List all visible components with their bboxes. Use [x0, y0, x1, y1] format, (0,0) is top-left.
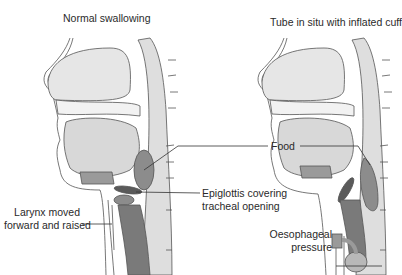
- left-head-section: [44, 38, 178, 275]
- label-oesophageal: Oesophageal pressure: [262, 228, 332, 254]
- label-oesophageal-line2: pressure: [262, 241, 332, 254]
- label-food: Food: [271, 140, 295, 153]
- label-larynx-line1: Larynx moved: [4, 206, 80, 219]
- label-larynx: Larynx moved forward and raised: [4, 206, 80, 232]
- label-larynx-line2: forward and raised: [4, 219, 80, 232]
- epiglottis-leader: [136, 192, 200, 193]
- label-epiglottis-line1: Epiglottis covering: [202, 187, 287, 200]
- label-oesophageal-line1: Oesophageal: [262, 228, 332, 241]
- label-epiglottis-line2: tracheal opening: [202, 200, 287, 213]
- label-epiglottis: Epiglottis covering tracheal opening: [202, 187, 287, 213]
